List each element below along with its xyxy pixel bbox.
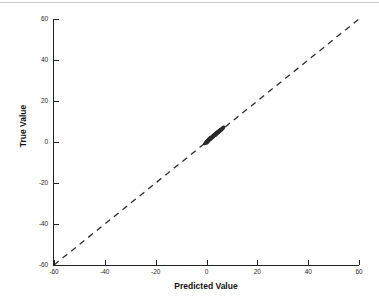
scatter-plot-figure: -60-40-200204060 -60-40-200204060 Predic… <box>0 0 379 302</box>
x-tick-mark <box>156 260 157 265</box>
data-point <box>222 126 225 129</box>
y-axis-label: True Value <box>18 56 28 196</box>
plot-area <box>54 19 359 265</box>
y-tick-mark <box>54 142 59 143</box>
y-tick-mark <box>54 265 59 266</box>
y-tick-mark <box>54 101 59 102</box>
y-tick-mark <box>54 183 59 184</box>
x-tick-mark <box>105 260 106 265</box>
x-tick-mark <box>54 260 55 265</box>
x-tick-label: -40 <box>85 268 125 275</box>
x-tick-label: 20 <box>237 268 277 275</box>
x-tick-mark <box>308 260 309 265</box>
x-tick-label: -20 <box>136 268 176 275</box>
data-point <box>205 142 208 145</box>
y-tick-mark <box>54 224 59 225</box>
x-tick-label: 60 <box>339 268 379 275</box>
x-tick-label: 40 <box>288 268 328 275</box>
x-tick-mark <box>207 260 208 265</box>
y-tick-label: 60 <box>18 15 48 22</box>
x-tick-mark <box>257 260 258 265</box>
scatter-series-predictions <box>203 126 225 146</box>
y-tick-mark <box>54 19 59 20</box>
x-axis-label: Predicted Value <box>53 281 359 291</box>
y-tick-label: -40 <box>18 220 48 227</box>
x-tick-label: 0 <box>187 268 227 275</box>
x-tick-label: -60 <box>34 268 74 275</box>
y-tick-label: -60 <box>18 261 48 268</box>
x-tick-mark <box>359 260 360 265</box>
top-divider-rule <box>0 2 379 3</box>
y-tick-mark <box>54 60 59 61</box>
plot-canvas <box>54 19 359 265</box>
x-axis-spine <box>53 265 359 266</box>
